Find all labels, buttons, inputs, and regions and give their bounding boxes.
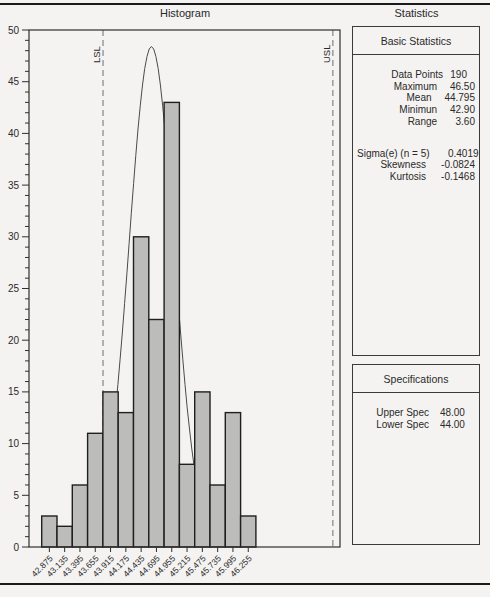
stat-label: Sigma(e) (n = 5): [357, 148, 430, 160]
histogram-bar: [42, 516, 57, 547]
stat-label: Kurtosis: [357, 171, 426, 183]
stat-label: Lower Spec: [357, 419, 429, 431]
lsl-label: LSL: [91, 46, 102, 63]
stat-label: Mean: [357, 92, 432, 104]
histogram-bar: [88, 433, 103, 547]
stat-row: Maximum46.50: [357, 81, 475, 93]
basic-statistics-header: Basic Statistics: [353, 27, 479, 55]
y-axis-tick-label: 25: [8, 283, 20, 294]
histogram-bar: [149, 320, 164, 548]
usl-label: USL: [321, 45, 332, 63]
stat-value: 44.795: [432, 92, 475, 104]
histogram-bar: [210, 485, 225, 547]
stat-label: Data Points: [357, 69, 443, 81]
stat-row: Kurtosis-0.1468: [357, 171, 475, 183]
stat-row: Data Points190: [357, 69, 475, 81]
y-axis-tick-label: 40: [8, 128, 20, 139]
histogram-chart: 0510152025303540455042.87543.13543.39543…: [0, 0, 348, 580]
stat-value: 190: [443, 69, 467, 81]
stat-row: Upper Spec48.00: [357, 407, 475, 419]
stat-row: Lower Spec44.00: [357, 419, 475, 431]
basic-statistics-box: Basic Statistics Data Points190Maximum46…: [352, 26, 480, 356]
y-axis-tick-label: 35: [8, 180, 20, 191]
stat-value: 44.00: [429, 419, 465, 431]
specifications-header: Specifications: [353, 365, 479, 393]
y-axis-tick-label: 0: [13, 542, 19, 553]
stat-value: 46.50: [437, 81, 475, 93]
y-axis-tick-label: 50: [8, 25, 20, 36]
histogram-bar: [225, 413, 240, 547]
stat-value: -0.0824: [426, 159, 475, 171]
histogram-bar: [134, 237, 149, 547]
y-axis-tick-label: 45: [8, 76, 20, 87]
stat-row: Range3.60: [357, 116, 475, 128]
y-axis-tick-label: 10: [8, 438, 20, 449]
report-page: Histogram Statistics 0510152025303540455…: [0, 0, 490, 597]
basic-statistics-rows: Data Points190Maximum46.50Mean44.795Mini…: [353, 55, 479, 128]
stat-label: Minimun: [357, 104, 437, 116]
y-axis-tick-label: 15: [8, 386, 20, 397]
histogram-bar: [179, 464, 194, 547]
stat-label: Upper Spec: [357, 407, 429, 419]
histogram-bar: [118, 413, 133, 547]
stat-label: Skewness: [357, 159, 426, 171]
histogram-bar: [57, 526, 72, 547]
stat-value: -0.1468: [426, 171, 475, 183]
stat-row: Sigma(e) (n = 5)0.4019: [357, 148, 475, 160]
histogram-bar: [164, 102, 179, 547]
stat-value: 3.60: [437, 116, 475, 128]
stat-value: 48.00: [429, 407, 465, 419]
y-axis-tick-label: 5: [13, 490, 19, 501]
y-axis-tick-label: 20: [8, 335, 20, 346]
stat-row: Skewness-0.0824: [357, 159, 475, 171]
specifications-box: Specifications Upper Spec48.00Lower Spec…: [352, 364, 480, 545]
stat-row: Mean44.795: [357, 92, 475, 104]
bottom-rule: [0, 583, 490, 585]
basic-statistics-rows-secondary: Sigma(e) (n = 5)0.4019Skewness-0.0824Kur…: [353, 128, 479, 183]
stat-value: 42.90: [437, 104, 475, 116]
histogram-bar: [241, 516, 256, 547]
histogram-bar: [103, 392, 118, 547]
y-axis-tick-label: 30: [8, 231, 20, 242]
stat-label: Range: [357, 116, 437, 128]
histogram-bar: [195, 392, 210, 547]
stat-value: 0.4019: [430, 148, 479, 160]
stats-panel-title: Statistics: [352, 7, 481, 19]
stat-row: Minimun42.90: [357, 104, 475, 116]
histogram-bar: [72, 485, 87, 547]
specifications-rows: Upper Spec48.00Lower Spec44.00: [353, 393, 479, 430]
stat-label: Maximum: [357, 81, 437, 93]
